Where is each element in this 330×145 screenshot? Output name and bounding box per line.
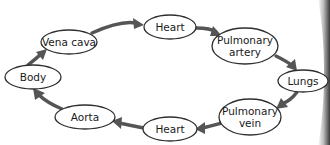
node-label: Heart: [155, 21, 184, 33]
node-label: Heart: [155, 123, 184, 135]
node-heart-bottom: Heart: [143, 117, 197, 141]
arrow-pulmonary-vein-to-heart: [195, 122, 222, 134]
arrow-aorta-to-body: [33, 88, 62, 109]
node-label: Body: [20, 71, 47, 83]
node-label: Vena cava: [42, 36, 96, 48]
node-pulmonary-artery: Pulmonary artery: [212, 28, 278, 64]
node-heart-top: Heart: [144, 15, 196, 39]
arrow-vena-cava-to-heart: [92, 18, 144, 33]
node-label: Aorta: [71, 111, 99, 123]
arrow-heart-to-aorta: [112, 117, 144, 129]
circulation-diagram: Vena cava Heart Pulmonary artery Lungs P…: [0, 0, 330, 145]
node-body: Body: [5, 65, 61, 89]
arrow-lungs-to-pulmonary-vein: [276, 92, 297, 109]
arrow-body-to-vena-cava: [28, 49, 47, 65]
node-label: Pulmonary: [217, 34, 273, 46]
node-lungs: Lungs: [278, 70, 328, 92]
node-label: Lungs: [287, 75, 318, 87]
node-pulmonary-vein: Pulmonary vein: [219, 99, 281, 135]
node-label: vein: [239, 117, 261, 129]
node-vena-cava: Vena cava: [41, 30, 97, 54]
node-aorta: Aorta: [55, 105, 115, 129]
node-label: artery: [229, 46, 261, 58]
arrow-pulmonary-artery-to-lungs: [276, 56, 297, 71]
node-label: Pulmonary: [222, 105, 278, 117]
